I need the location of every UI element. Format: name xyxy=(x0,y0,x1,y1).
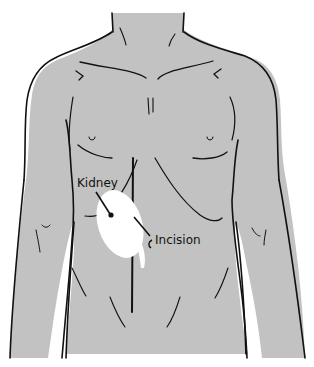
kidney-leader-dot xyxy=(109,213,113,217)
kidney-label: Kidney xyxy=(77,177,118,189)
torso-diagram xyxy=(0,0,314,367)
neck-left-outline xyxy=(112,13,113,32)
neck-right-outline xyxy=(183,13,184,32)
incision-label: Incision xyxy=(155,234,201,246)
